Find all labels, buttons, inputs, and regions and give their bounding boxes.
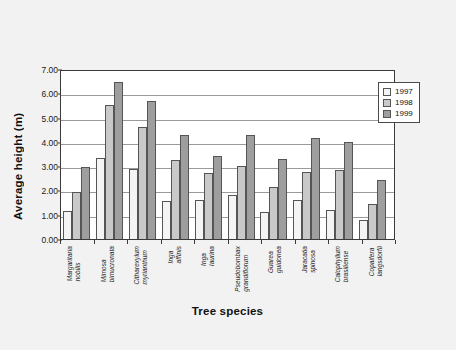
bar-group bbox=[260, 71, 293, 239]
bar-group bbox=[195, 71, 228, 239]
y-tick-label: 3.00 bbox=[24, 162, 58, 172]
x-category-label: Ingaaffinis bbox=[167, 246, 183, 263]
x-category-label-line: guidonea bbox=[275, 246, 283, 273]
bar-group bbox=[96, 71, 129, 239]
bar-1999 bbox=[311, 138, 320, 239]
y-tick-label: 4.00 bbox=[24, 138, 58, 148]
bar-1999 bbox=[278, 159, 287, 239]
plot-area bbox=[60, 70, 395, 240]
bar-1998 bbox=[204, 173, 213, 239]
x-category-label: Ingalaurina bbox=[200, 246, 216, 266]
bar-1999 bbox=[180, 135, 189, 239]
x-tick-mark bbox=[261, 240, 262, 244]
bar-chart: Average height (m) 0.001.002.003.004.005… bbox=[0, 0, 456, 340]
bar-1997 bbox=[195, 200, 204, 239]
bar-group bbox=[129, 71, 162, 239]
x-axis-title: Tree species bbox=[60, 305, 395, 317]
x-category-label-line: Mimosa bbox=[100, 246, 108, 282]
y-tick-label: 5.00 bbox=[24, 114, 58, 124]
bar-1997 bbox=[293, 200, 302, 239]
legend-swatch bbox=[383, 99, 391, 107]
x-category-label: Pseudobombaxgrandiflorum bbox=[234, 246, 250, 292]
bar-group bbox=[228, 71, 261, 239]
y-tick-label: 0.00 bbox=[24, 235, 58, 245]
x-category-label-line: bimucronata bbox=[108, 246, 116, 282]
x-category-label-line: Copaifera bbox=[368, 246, 376, 276]
bar-1998 bbox=[237, 166, 246, 239]
legend-label: 1999 bbox=[395, 109, 413, 118]
bar-1998 bbox=[368, 204, 377, 239]
x-category-label: Calophyllumbrasiliense bbox=[334, 246, 350, 282]
x-category-label-line: Guarea bbox=[267, 246, 275, 273]
x-tick-mark bbox=[60, 240, 61, 244]
bar-1999 bbox=[114, 82, 123, 239]
x-category-label-line: Pseudobombax bbox=[234, 246, 242, 292]
bar-1999 bbox=[213, 156, 222, 239]
x-category-label: Copaiferalangsdorfii bbox=[368, 246, 384, 276]
x-category-label-line: Margaritaria bbox=[66, 246, 74, 281]
x-tick-mark bbox=[94, 240, 95, 244]
legend-swatch bbox=[383, 88, 391, 96]
bar-1998 bbox=[269, 187, 278, 239]
y-tick-label: 6.00 bbox=[24, 89, 58, 99]
x-tick-mark bbox=[161, 240, 162, 244]
x-category-label-line: langsdorfii bbox=[376, 246, 384, 276]
bar-1998 bbox=[171, 160, 180, 239]
bar-groups bbox=[61, 71, 394, 239]
x-category-label-line: Citharexylum bbox=[133, 246, 141, 285]
y-axis-ticks: 0.001.002.003.004.005.006.007.00 bbox=[18, 70, 58, 240]
x-tick-mark bbox=[328, 240, 329, 244]
x-category-label: Guareaguidonea bbox=[267, 246, 283, 273]
bar-group bbox=[293, 71, 326, 239]
legend-item: 1997 bbox=[383, 86, 413, 97]
x-category-label-line: laurina bbox=[208, 246, 216, 266]
bar-1997 bbox=[162, 201, 171, 239]
bar-1997 bbox=[96, 158, 105, 239]
bar-group bbox=[326, 71, 359, 239]
x-category-label-line: myrianthum bbox=[141, 246, 149, 285]
bar-1998 bbox=[335, 170, 344, 239]
bar-1999 bbox=[81, 167, 90, 239]
bar-1999 bbox=[147, 101, 156, 239]
bar-1998 bbox=[302, 172, 311, 239]
y-tick-label: 1.00 bbox=[24, 211, 58, 221]
x-category-label-line: Inga bbox=[167, 246, 175, 263]
bar-1998 bbox=[105, 105, 114, 239]
x-category-label: Jaracatiaspinosa bbox=[301, 246, 317, 273]
bar-1998 bbox=[138, 127, 147, 239]
bar-1999 bbox=[377, 180, 386, 240]
figure-container: Average height (m) 0.001.002.003.004.005… bbox=[0, 0, 466, 350]
bar-group bbox=[162, 71, 195, 239]
x-category-label-line: brasiliense bbox=[342, 246, 350, 282]
bar-1999 bbox=[344, 142, 353, 239]
legend-item: 1998 bbox=[383, 97, 413, 108]
x-tick-mark bbox=[395, 240, 396, 244]
x-tick-mark bbox=[194, 240, 195, 244]
x-category-label-line: grandiflorum bbox=[242, 246, 250, 292]
bar-1997 bbox=[129, 169, 138, 239]
bar-1997 bbox=[228, 195, 237, 239]
bar-1997 bbox=[63, 211, 72, 239]
y-tick-label: 7.00 bbox=[24, 65, 58, 75]
x-category-label-line: affinis bbox=[175, 246, 183, 263]
legend-item: 1999 bbox=[383, 108, 413, 119]
x-tick-mark bbox=[127, 240, 128, 244]
x-category-label-line: Calophyllum bbox=[334, 246, 342, 282]
legend-label: 1997 bbox=[395, 87, 413, 96]
bar-1999 bbox=[246, 135, 255, 239]
x-category-label: Margaritarianobilis bbox=[66, 246, 82, 281]
x-category-label-line: Inga bbox=[200, 246, 208, 266]
x-axis-ticks: MargaritarianobilisMimosabimucronataCith… bbox=[60, 240, 395, 302]
legend-swatch bbox=[383, 110, 391, 118]
x-category-label: Mimosabimucronata bbox=[100, 246, 116, 282]
bar-group bbox=[63, 71, 96, 239]
bar-1997 bbox=[359, 220, 368, 239]
x-tick-mark bbox=[228, 240, 229, 244]
x-category-label: Citharexylummyrianthum bbox=[133, 246, 149, 285]
legend-label: 1998 bbox=[395, 98, 413, 107]
x-category-label-line: spinosa bbox=[309, 246, 317, 273]
x-category-label-line: nobilis bbox=[74, 246, 82, 281]
chart-legend: 199719981999 bbox=[378, 82, 420, 123]
bar-1998 bbox=[72, 192, 81, 239]
y-tick-label: 2.00 bbox=[24, 186, 58, 196]
